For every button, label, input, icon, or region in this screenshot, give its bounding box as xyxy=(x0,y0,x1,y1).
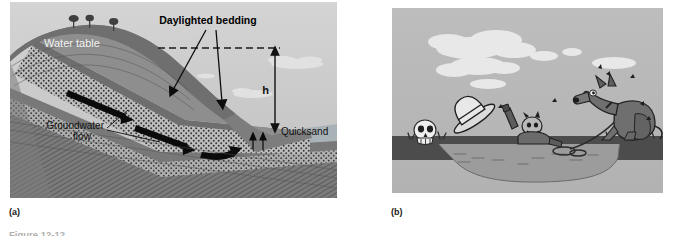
panel-a-cross-section: h Daylighted bedding Water table xyxy=(10,2,337,198)
height-label: h xyxy=(262,84,269,96)
groundwater-flow-label-line1: Groundwater xyxy=(46,120,104,131)
figure-caption: Figure 12-12 xyxy=(9,229,65,236)
water-table-label: Water table xyxy=(44,37,100,49)
cross-section-svg: h Daylighted bedding Water table xyxy=(10,2,337,198)
panel-a-sublabel: (a) xyxy=(9,207,20,217)
figure-container: h Daylighted bedding Water table xyxy=(0,0,679,236)
quicksand-label: Quicksand xyxy=(281,126,328,137)
panel-b-sublabel: (b) xyxy=(391,207,403,217)
skull-icon xyxy=(414,120,436,145)
cartoon-svg xyxy=(392,8,663,193)
panel-b-cartoon xyxy=(392,8,663,193)
daylighted-bedding-label: Daylighted bedding xyxy=(159,14,256,26)
